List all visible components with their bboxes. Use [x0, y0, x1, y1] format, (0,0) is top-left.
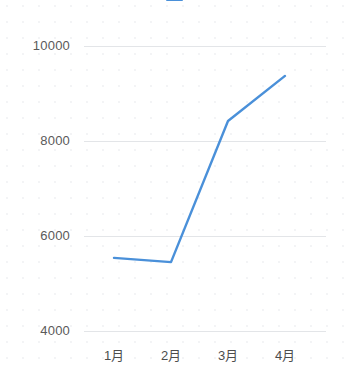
plot-area: 10000 8000 6000 4000 1月 2月 3月 4月	[0, 0, 346, 373]
chart-screenshot: 10000 8000 6000 4000 1月 2月 3月 4月	[0, 0, 346, 373]
line-series-0	[114, 76, 285, 262]
line-series-layer	[0, 0, 346, 373]
